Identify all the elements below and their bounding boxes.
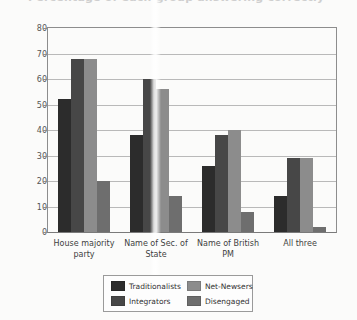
y-tick-label: 30 [7, 151, 47, 160]
x-axis-labels: House majority partyName of Sec. of Stat… [48, 238, 336, 260]
x-axis-label: Name of Sec. of State [120, 238, 192, 260]
bar [300, 158, 313, 232]
bar [274, 196, 287, 232]
bar-group [264, 28, 336, 232]
bar [156, 89, 169, 232]
bar [84, 59, 97, 232]
y-tick-label: 20 [7, 177, 47, 186]
bar-groups [48, 28, 336, 232]
bar [97, 181, 110, 232]
chart-title-cropped: Percentage of each group answering corre… [0, 0, 357, 13]
legend-swatch-icon [187, 296, 201, 306]
bar [313, 227, 326, 232]
y-tick-label: 10 [7, 202, 47, 211]
bar [202, 166, 215, 232]
bar-group [192, 28, 264, 232]
y-tick-label: 50 [7, 100, 47, 109]
legend-item[interactable]: Net-Newsers [187, 281, 253, 291]
bar [241, 212, 254, 232]
y-axis: 01020304050607080 [0, 27, 47, 233]
x-axis-label: Name of British PM [192, 238, 264, 260]
legend-swatch-icon [111, 281, 125, 291]
bar [71, 59, 84, 232]
bar [130, 135, 143, 232]
bar [215, 135, 228, 232]
y-tick-label: 70 [7, 49, 47, 58]
chart-page: Percentage of each group answering corre… [0, 0, 357, 320]
bar-group [48, 28, 120, 232]
legend-label: Disengaged [205, 297, 250, 306]
bar [143, 79, 156, 232]
legend-label: Traditionalists [129, 282, 181, 291]
legend-label: Net-Newsers [205, 282, 253, 291]
legend-label: Integrators [129, 297, 170, 306]
x-axis-label: House majority party [48, 238, 120, 260]
bar [228, 130, 241, 232]
y-tick-label: 60 [7, 75, 47, 84]
chart-title-text: Percentage of each group answering corre… [28, 0, 324, 4]
bar [58, 99, 71, 232]
y-tick-label: 40 [7, 126, 47, 135]
legend-swatch-icon [187, 281, 201, 291]
legend-item[interactable]: Traditionalists [111, 281, 181, 291]
y-tick-label: 80 [7, 24, 47, 33]
x-axis-label: All three [264, 238, 336, 260]
bar [169, 196, 182, 232]
legend-item[interactable]: Disengaged [187, 296, 253, 306]
legend-swatch-icon [111, 296, 125, 306]
legend-item[interactable]: Integrators [111, 296, 181, 306]
chart-legend: TraditionalistsNet-NewsersIntegratorsDis… [103, 275, 253, 312]
bar-group [120, 28, 192, 232]
bar [287, 158, 300, 232]
y-tick-label: 0 [7, 228, 47, 237]
